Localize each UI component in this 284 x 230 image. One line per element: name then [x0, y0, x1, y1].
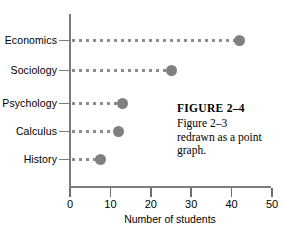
figure-caption-line-1: Figure 2–3: [177, 117, 282, 131]
category-tick: [59, 131, 70, 133]
data-point[interactable]: [166, 65, 177, 76]
data-point[interactable]: [113, 126, 124, 137]
leader-line: [72, 69, 167, 72]
category-tick: [59, 70, 70, 72]
leader-line: [72, 130, 114, 133]
x-axis-tick-label: 50: [257, 198, 284, 211]
figure-caption: FIGURE 2–4 Figure 2–3 redrawn as a point…: [177, 101, 282, 158]
data-point[interactable]: [117, 98, 128, 109]
category-label: Psychology: [0, 95, 57, 111]
figure-caption-body: Figure 2–3 redrawn as a point graph.: [177, 117, 282, 158]
category-row: Economics: [0, 32, 284, 48]
x-axis-tick-label: 40: [217, 198, 247, 211]
x-axis-tick-label: 10: [95, 198, 125, 211]
category-tick: [59, 159, 70, 161]
data-point[interactable]: [234, 35, 245, 46]
category-tick: [59, 103, 70, 105]
leader-line: [72, 39, 236, 42]
leader-line: [72, 158, 96, 161]
category-label: Sociology: [0, 62, 57, 78]
figure-caption-title: FIGURE 2–4: [177, 101, 282, 115]
data-point[interactable]: [95, 154, 106, 165]
category-label: History: [0, 151, 57, 167]
leader-line: [72, 102, 119, 105]
x-axis-title: Number of students: [69, 213, 271, 226]
x-axis-tick: [231, 188, 233, 197]
category-label: Economics: [0, 32, 57, 48]
category-label: Calculus: [0, 123, 57, 139]
x-axis-tick: [271, 188, 273, 197]
x-axis-tick: [190, 188, 192, 197]
x-axis-tick-label: 0: [55, 198, 85, 211]
x-axis-tick: [69, 188, 71, 197]
category-tick: [59, 40, 70, 42]
category-row: Sociology: [0, 62, 284, 78]
x-axis-tick-label: 20: [136, 198, 166, 211]
x-axis-tick: [110, 188, 112, 197]
figure-caption-line-2: redrawn as a point: [177, 131, 282, 145]
x-axis-tick: [150, 188, 152, 197]
point-graph-figure: Economics Sociology Psychology Calculus …: [0, 0, 284, 230]
x-axis-tick-label: 30: [176, 198, 206, 211]
figure-caption-line-3: graph.: [177, 144, 282, 158]
x-axis-line: [69, 186, 271, 188]
